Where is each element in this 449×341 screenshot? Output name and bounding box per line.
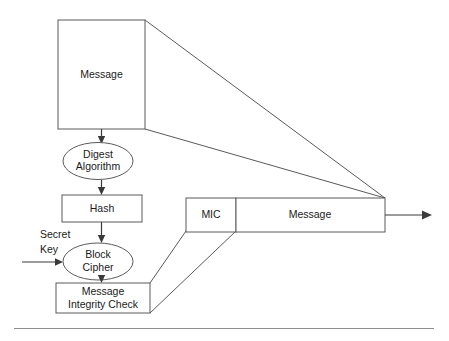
arrow-message-to-digest	[98, 129, 105, 144]
message-integrity-check-label-line2: Integrity Check	[68, 298, 139, 310]
mic-map-lower-connector	[150, 231, 236, 313]
hash-label: Hash	[90, 202, 115, 214]
message-integrity-check-label-line1: Message	[82, 285, 125, 297]
node-output-message: Message	[236, 198, 385, 232]
secret-key-label-line2: Key	[40, 243, 59, 255]
mic-map-upper-connector	[150, 231, 186, 283]
connector-group	[145, 20, 385, 313]
node-message-integrity-check: Message Integrity Check	[56, 283, 150, 313]
hash-to-block-cipher-arrowhead	[98, 235, 105, 243]
arrow-hash-to-block-cipher	[98, 222, 105, 243]
arrow-digest-to-hash	[98, 180, 105, 195]
message-copy-upper-connector	[145, 20, 385, 198]
node-mic-field: MIC	[186, 198, 236, 232]
message-copy-lower-connector	[145, 129, 385, 198]
diagram-svg: Message Digest Algorithm Hash	[0, 0, 449, 341]
block-cipher-label-line1: Block	[85, 248, 111, 260]
output-transmit-arrowhead	[422, 211, 432, 220]
node-secret-key: Secret Key	[40, 228, 70, 255]
arrow-output-transmit	[385, 211, 432, 220]
node-block-cipher: Block Cipher	[63, 243, 133, 280]
block-cipher-label-line2: Cipher	[83, 261, 114, 273]
node-digest-algorithm: Digest Algorithm	[63, 143, 133, 180]
digest-to-hash-arrowhead	[98, 187, 105, 195]
mic-field-label: MIC	[201, 208, 221, 220]
digest-algorithm-label-line2: Algorithm	[76, 160, 121, 172]
digest-algorithm-label-line1: Digest	[83, 148, 113, 160]
diagram-canvas: Message Digest Algorithm Hash	[0, 0, 449, 341]
output-message-label: Message	[289, 208, 332, 220]
node-hash: Hash	[62, 195, 142, 222]
secret-key-label-line1: Secret	[40, 228, 70, 240]
secret-key-arrowhead	[55, 258, 63, 265]
source-message-label: Message	[80, 68, 123, 80]
arrow-secret-key-to-block-cipher	[22, 258, 63, 265]
node-source-message: Message	[58, 20, 145, 129]
